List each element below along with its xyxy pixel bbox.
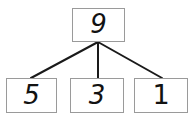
child-node-value-1: 5 [23,82,40,108]
connector-root-to-left-child [31,42,98,78]
child-node-box-3: 1 [134,78,188,113]
root-node-value: 9 [90,11,107,37]
connector-root-to-right-child [98,42,162,78]
child-node-box-1: 5 [6,78,57,113]
child-node-box-2: 3 [70,78,124,113]
number-bond-diagram: 9 5 3 1 [0,0,195,117]
child-node-value-2: 3 [89,82,106,108]
root-node-box: 9 [72,8,125,42]
child-node-value-3: 1 [152,81,169,108]
